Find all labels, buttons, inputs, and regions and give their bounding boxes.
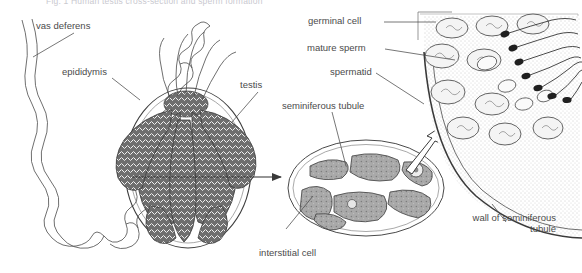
vas-deferens-shape [22,19,104,248]
label-epididymis: epididymis [62,66,107,77]
label-vas-deferens: vas deferens [36,20,90,31]
testis-shape [116,32,256,248]
label-spermatid: spermatid [330,66,372,77]
label-testis: testis [240,79,262,90]
figure-root: Fig. 1 Human testis cross-section and sp… [0,0,582,273]
leader-spermatid [376,73,424,104]
tubule-wall-detail-panel [418,12,582,238]
label-wall-of-seminiferous-tubule: wall of seminiferous tubule [452,212,556,234]
label-interstitial-cell: interstitial cell [259,247,316,258]
leader-testis [232,92,258,122]
label-mature-sperm: mature sperm [307,42,366,53]
leader-vas-deferens [33,33,74,57]
label-germinal-cell: germinal cell [308,15,361,26]
label-seminiferous-tubule: seminiferous tubule [282,100,364,111]
leader-epididymis [112,78,140,100]
